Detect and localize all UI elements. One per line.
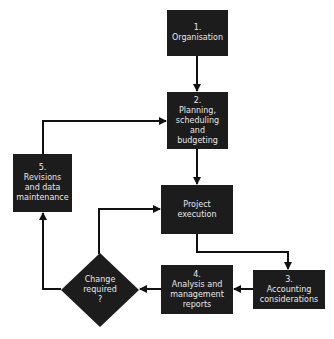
node-label-line: Revisions bbox=[24, 173, 62, 183]
node-label-line: considerations bbox=[260, 295, 318, 305]
node-organisation: 1. Organisation bbox=[167, 10, 228, 56]
node-number: 1. bbox=[194, 23, 202, 33]
node-number: 2. bbox=[194, 96, 202, 106]
node-label-line: reports bbox=[183, 300, 212, 310]
decision-label-line: Change bbox=[85, 275, 116, 285]
node-number: 3. bbox=[285, 275, 293, 285]
node-label-line: Accounting bbox=[267, 285, 312, 295]
node-label-line: management bbox=[170, 290, 224, 300]
node-number: 5. bbox=[39, 163, 47, 173]
node-decision: Change required ? bbox=[61, 253, 139, 327]
decision-label-line: required bbox=[83, 285, 117, 295]
node-label-line: and bbox=[190, 126, 205, 136]
node-label-line: Analysis and bbox=[172, 280, 223, 290]
node-revisions: 5. Revisions and data maintenance bbox=[13, 154, 72, 212]
edge-decision-to-revisions bbox=[43, 213, 61, 289]
flowchart-diagram: 1. Organisation 2. Planning, scheduling … bbox=[0, 0, 334, 339]
edge-decision-to-execution bbox=[99, 209, 160, 254]
edge-revisions-to-planning bbox=[43, 121, 166, 154]
node-number: 4. bbox=[193, 270, 201, 280]
node-analysis: 4. Analysis and management reports bbox=[161, 265, 233, 314]
node-label-line: execution bbox=[178, 210, 217, 220]
node-accounting: 3. Accounting considerations bbox=[253, 270, 325, 309]
node-label-line: Project bbox=[183, 200, 210, 210]
node-label-line: Organisation bbox=[172, 33, 223, 43]
node-label-line: and data bbox=[25, 183, 61, 193]
node-execution: Project execution bbox=[161, 185, 233, 234]
node-planning: 2. Planning, scheduling and budgeting bbox=[167, 92, 228, 149]
node-label-line: maintenance bbox=[16, 193, 68, 203]
node-label-line: budgeting bbox=[177, 136, 218, 146]
edge-execution-to-accounting bbox=[197, 234, 288, 269]
node-label-line: scheduling bbox=[176, 116, 219, 126]
decision-label-line: ? bbox=[98, 295, 102, 305]
node-label-line: Planning, bbox=[179, 106, 216, 116]
